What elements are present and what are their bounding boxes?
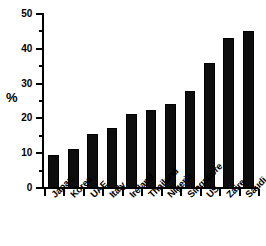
bar-chart: % 01020304050 JapanKoreaUAEItalyIrelandT… — [0, 0, 266, 246]
y-tick-major — [36, 152, 44, 154]
y-tick-major — [36, 187, 44, 189]
y-tick-label: 40 — [21, 44, 32, 54]
y-axis-title: % — [6, 90, 18, 105]
y-tick-major — [36, 117, 44, 119]
bar — [126, 114, 137, 188]
y-tick-label: 20 — [21, 113, 32, 123]
bar — [107, 128, 118, 188]
y-tick-label: 50 — [21, 9, 32, 19]
y-tick-major — [36, 13, 44, 15]
y-tick-major — [36, 83, 44, 85]
y-tick-label: 10 — [21, 148, 32, 158]
plot-area — [44, 14, 258, 188]
y-tick-label: 0 — [27, 183, 32, 193]
y-tick-label: 30 — [21, 79, 32, 89]
x-tick — [44, 189, 46, 196]
bar — [243, 31, 254, 188]
y-tick-major — [36, 48, 44, 50]
bar — [223, 38, 234, 188]
